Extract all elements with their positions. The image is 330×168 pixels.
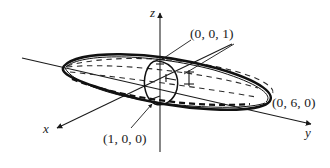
ellipsoid-figure: (0, 0, 1) (0, 6, 0) (1, 0, 0) z y x — [0, 0, 330, 168]
ellipsoid-silhouette — [63, 54, 271, 109]
axis-label-z: z — [150, 6, 155, 19]
point-label-0-6-0: (0, 6, 0) — [272, 96, 316, 110]
axis-label-x: x — [43, 122, 49, 135]
leader-lines — [131, 40, 234, 128]
figure-canvas — [0, 0, 330, 168]
point-label-1-0-0: (1, 0, 0) — [103, 132, 147, 146]
point-label-0-0-1: (0, 0, 1) — [190, 27, 234, 41]
axis-label-y: y — [305, 126, 311, 139]
